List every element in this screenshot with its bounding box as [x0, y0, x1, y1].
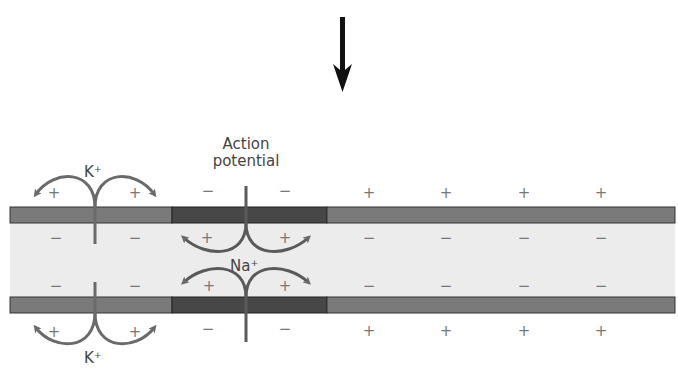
- charge-sign: +: [199, 231, 215, 246]
- charge-sign: −: [438, 279, 454, 294]
- charge-sign: +: [46, 186, 62, 201]
- charge-sign: +: [127, 325, 143, 340]
- charge-sign: +: [201, 279, 217, 294]
- action-label-line1: Action: [205, 136, 287, 153]
- charge-sign: −: [516, 231, 532, 246]
- charge-sign: +: [361, 186, 377, 201]
- charge-sign: −: [593, 231, 609, 246]
- charge-sign: −: [361, 231, 377, 246]
- charge-sign: +: [438, 186, 454, 201]
- charge-sign: −: [516, 279, 532, 294]
- charge-sign: +: [438, 324, 454, 339]
- charge-sign: +: [516, 186, 532, 201]
- action-label-line2: potential: [205, 153, 287, 170]
- action-potential-label: Action potential: [205, 136, 287, 170]
- charge-sign: +: [46, 325, 62, 340]
- charge-sign: −: [200, 322, 216, 337]
- charge-sign: +: [516, 324, 532, 339]
- charge-sign: +: [593, 324, 609, 339]
- charge-sign: +: [277, 279, 293, 294]
- diagram-graphics: [0, 0, 678, 371]
- k-bottom-label: K⁺: [84, 350, 102, 367]
- charge-sign: −: [200, 184, 216, 199]
- charge-sign: +: [361, 324, 377, 339]
- charge-sign: −: [277, 322, 293, 337]
- charge-sign: −: [593, 279, 609, 294]
- k-top-label: K⁺: [84, 164, 102, 181]
- na-label: Na⁺: [230, 258, 258, 275]
- charge-sign: −: [438, 231, 454, 246]
- charge-sign: +: [277, 231, 293, 246]
- charge-sign: −: [48, 231, 64, 246]
- charge-sign: −: [127, 231, 143, 246]
- charge-sign: +: [593, 186, 609, 201]
- charge-sign: −: [127, 279, 143, 294]
- charge-sign: −: [277, 184, 293, 199]
- charge-sign: +: [127, 186, 143, 201]
- propagation-arrow-icon: [333, 17, 352, 92]
- charge-sign: −: [48, 279, 64, 294]
- charge-sign: −: [361, 279, 377, 294]
